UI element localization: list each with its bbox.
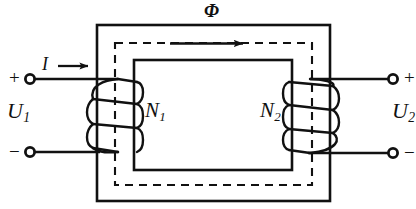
secondary-voltage-subscript: 2 bbox=[408, 110, 415, 125]
transformer-schematic-canvas bbox=[0, 0, 416, 209]
primary-positive-terminal-node[interactable] bbox=[25, 74, 34, 83]
secondary-turns-base: N bbox=[260, 98, 274, 122]
transformer-diagram: Φ I N1 N2 U1 U2 + − + − bbox=[0, 0, 416, 209]
secondary-voltage-base: U bbox=[392, 98, 408, 123]
secondary-turns-subscript: 2 bbox=[274, 109, 281, 124]
secondary-positive-terminal-node[interactable] bbox=[388, 74, 397, 83]
primary-positive-sign: + bbox=[9, 68, 20, 87]
primary-negative-terminal-node[interactable] bbox=[25, 147, 34, 156]
primary-turns-label: N1 bbox=[145, 100, 166, 121]
secondary-voltage-label: U2 bbox=[392, 100, 415, 122]
primary-negative-sign: − bbox=[9, 142, 20, 161]
secondary-turns-label: N2 bbox=[260, 100, 281, 121]
core-outer-rectangle bbox=[97, 25, 330, 201]
primary-turns-subscript: 1 bbox=[159, 109, 166, 124]
secondary-positive-sign: + bbox=[404, 68, 415, 87]
flux-label: Φ bbox=[204, 1, 219, 20]
primary-voltage-subscript: 1 bbox=[23, 110, 30, 125]
primary-voltage-base: U bbox=[7, 98, 23, 123]
primary-voltage-label: U1 bbox=[7, 100, 30, 122]
primary-turns-base: N bbox=[145, 98, 159, 122]
secondary-negative-sign: − bbox=[404, 143, 415, 162]
current-label: I bbox=[42, 55, 48, 73]
secondary-negative-terminal-node[interactable] bbox=[388, 148, 397, 157]
